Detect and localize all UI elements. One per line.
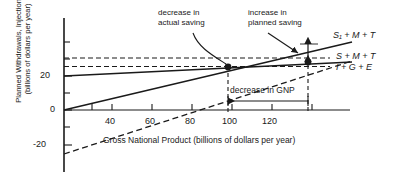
y-tick-label-0: 0 (50, 104, 55, 114)
x-tick-label-60: 60 (145, 116, 155, 126)
annotation-decrease-actual-saving-line2: actual saving (158, 18, 230, 28)
curve-label-i-g-e: I + G + E (336, 62, 372, 72)
annotation-increase-planned-saving-line1: increase in (248, 8, 328, 18)
y-tick-label-neg20: -20 (33, 139, 46, 149)
leader-increase-planned-saving (268, 33, 298, 53)
y-axis-title-line1: Planned Withdrawals, Injections (14, 0, 23, 124)
annotation-decrease-actual-saving-line1: decrease in (158, 8, 230, 18)
x-tick-label-120: 120 (262, 116, 277, 126)
curve-label-s-m-t: S + M + T (336, 51, 376, 61)
x-tick-label-40: 40 (105, 116, 115, 126)
y-tick-label-20: 20 (40, 70, 50, 80)
leader-decrease-actual-saving (193, 33, 226, 64)
y-axis-title: Planned Withdrawals, Injections (billion… (14, 0, 32, 124)
curve-label-s1-m-t: S₁ + M + T (333, 30, 375, 40)
chart-plot-area (0, 0, 410, 184)
economics-chart-figure: Planned Withdrawals, Injections (billion… (0, 0, 410, 184)
x-tick-label-100: 100 (222, 116, 237, 126)
annotation-decrease-in-gnp: decrease in GNP (230, 86, 295, 96)
annotation-increase-planned-saving-line2: planned saving (248, 18, 328, 28)
x-tick-label-80: 80 (185, 116, 195, 126)
axis-lines (64, 18, 350, 172)
y-axis-title-line2: (billions of dollars per year) (23, 0, 32, 124)
equilibrium-point-new (225, 64, 232, 71)
annotation-decrease-actual-saving: decrease in actual saving (158, 8, 230, 27)
annotation-increase-planned-saving: increase in planned saving (248, 8, 328, 27)
x-axis-title: Gross National Product (billions of doll… (103, 135, 295, 145)
